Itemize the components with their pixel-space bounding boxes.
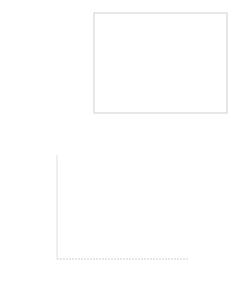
top-chart	[94, 13, 227, 113]
figure	[0, 0, 240, 288]
bottom-chart	[57, 155, 188, 259]
top-chart-frame	[94, 13, 227, 113]
